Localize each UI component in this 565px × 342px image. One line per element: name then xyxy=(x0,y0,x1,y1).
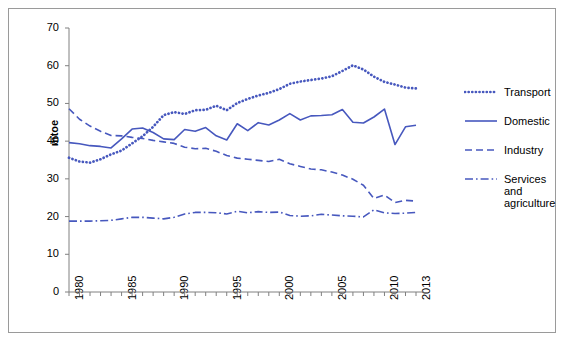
legend-item: Industry xyxy=(464,143,556,159)
legend-label: Domestic xyxy=(504,114,550,127)
legend-swatch-icon xyxy=(464,172,498,186)
series-line-3 xyxy=(69,210,416,221)
series-line-0 xyxy=(69,65,416,162)
legend-item: Domestic xyxy=(464,114,556,130)
legend-label: Services and agriculture xyxy=(504,172,556,209)
series-line-1 xyxy=(69,109,416,148)
legend-item: Services and agriculture xyxy=(464,172,556,209)
legend-swatch-icon xyxy=(464,143,498,157)
legend-swatch-icon xyxy=(464,85,498,99)
legend-item: Transport xyxy=(464,85,556,101)
legend-label: Industry xyxy=(504,143,543,156)
legend-label: Transport xyxy=(504,85,551,98)
legend-swatch-icon xyxy=(464,114,498,128)
chart-figure: mtoe 010203040506070 1980198519901995200… xyxy=(8,8,556,333)
chart-legend: TransportDomesticIndustryServices and ag… xyxy=(464,85,556,222)
